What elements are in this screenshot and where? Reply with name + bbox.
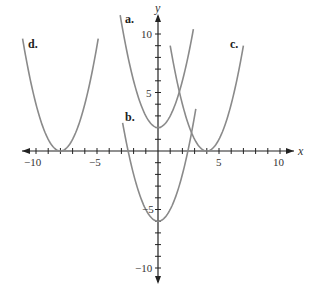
x-axis-label: x [297, 144, 304, 158]
x-tick-label-5: 5 [216, 156, 222, 168]
curve-label-c: c. [230, 37, 238, 51]
y-tick-label-10: 10 [141, 28, 153, 40]
x-axis-left-arrow-icon [22, 148, 30, 154]
y-tick-label-neg5: −5 [142, 203, 154, 215]
curve-label-d: d. [28, 37, 38, 51]
y-axis-down-arrow-icon [155, 276, 161, 284]
x-axis-right-arrow-icon [286, 148, 294, 154]
parabola-d [23, 39, 99, 151]
curve-label-a: a. [125, 12, 134, 26]
y-tick-label-5: 5 [146, 87, 152, 99]
y-axis-label: y [154, 1, 161, 15]
y-tick-label-neg10: −10 [135, 262, 153, 274]
x-tick-label-neg10: −10 [24, 156, 42, 168]
x-tick-label-neg5: −5 [89, 156, 101, 168]
x-tick-label-10: 10 [273, 156, 285, 168]
curve-label-b: b. [125, 110, 135, 124]
parabola-c [170, 46, 243, 151]
y-axis-up-arrow-icon [155, 14, 161, 22]
parabola-chart: x y −10 −5 5 10 10 5 −5 −10 a. b. c. d. [0, 0, 316, 292]
parabola-b [123, 109, 196, 221]
